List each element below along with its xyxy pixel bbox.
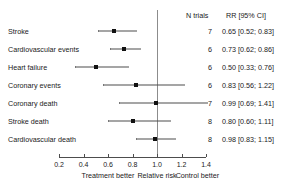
confidence-interval-cap xyxy=(175,139,176,140)
confidence-interval-cap xyxy=(170,121,171,122)
column-header-effect: RR [95% CI] xyxy=(226,11,266,20)
x-axis-tick xyxy=(206,154,207,157)
confidence-interval-cap xyxy=(119,103,120,104)
point-estimate-marker xyxy=(122,47,126,51)
confidence-interval-cap xyxy=(110,49,111,50)
x-axis-tick-label: 1.0 xyxy=(152,161,162,168)
row-outcome-label: Cardiovascular death xyxy=(8,135,76,144)
x-axis-tick-label: 1.2 xyxy=(177,161,187,168)
forest-row: Stroke death80.80 [0.60; 1.11] xyxy=(0,112,289,130)
confidence-interval-line xyxy=(98,31,136,32)
point-estimate-marker xyxy=(131,119,135,123)
row-effect-estimate: 0.98 [0.83; 1.15] xyxy=(222,135,274,144)
confidence-interval-cap xyxy=(136,139,137,140)
point-estimate-marker xyxy=(154,101,158,105)
row-effect-estimate: 0.99 [0.69; 1.41] xyxy=(222,99,274,108)
forest-row: Cardiovascular death80.98 [0.83; 1.15] xyxy=(0,130,289,148)
confidence-interval-cap xyxy=(128,67,129,68)
confidence-interval-cap xyxy=(103,85,104,86)
x-axis-line xyxy=(59,157,206,158)
x-axis-tick xyxy=(84,154,85,157)
row-n-trials: 6 xyxy=(186,63,212,72)
row-effect-estimate: 0.65 [0.52; 0.83] xyxy=(222,27,274,36)
row-n-trials: 8 xyxy=(186,135,212,144)
x-axis-tick-label: 1.4 xyxy=(201,161,211,168)
confidence-interval-line xyxy=(108,121,170,122)
row-effect-estimate: 0.73 [0.62; 0.86] xyxy=(222,45,274,54)
x-axis-tick xyxy=(133,154,134,157)
x-axis-tick xyxy=(157,154,158,157)
confidence-interval-cap xyxy=(75,67,76,68)
x-axis-tick-label: 0.6 xyxy=(103,161,113,168)
confidence-interval-cap xyxy=(98,31,99,32)
row-effect-estimate: 0.83 [0.56; 1.22] xyxy=(222,81,274,90)
x-axis-tick-label: 0.8 xyxy=(128,161,138,168)
row-outcome-label: Stroke death xyxy=(8,117,49,126)
row-outcome-label: Heart failure xyxy=(8,63,47,72)
confidence-interval-cap xyxy=(184,85,185,86)
x-axis-tick-label: 0.4 xyxy=(79,161,89,168)
row-outcome-label: Coronary events xyxy=(8,81,61,90)
column-header-n-trials: N trials xyxy=(186,11,208,20)
x-axis-tick-label: 0.2 xyxy=(54,161,64,168)
confidence-interval-line xyxy=(75,67,128,68)
forest-row: Heart failure60.50 [0.33; 0.76] xyxy=(0,58,289,76)
forest-row: Stroke70.65 [0.52; 0.83] xyxy=(0,22,289,40)
confidence-interval-line xyxy=(103,85,184,86)
point-estimate-marker xyxy=(94,65,98,69)
row-n-trials: 8 xyxy=(186,117,212,126)
row-n-trials: 6 xyxy=(186,81,212,90)
x-axis-tick xyxy=(182,154,183,157)
row-n-trials: 7 xyxy=(186,99,212,108)
confidence-interval-cap xyxy=(140,49,141,50)
forest-row: Coronary events60.83 [0.56; 1.22] xyxy=(0,76,289,94)
point-estimate-marker xyxy=(153,137,157,141)
x-axis-tick xyxy=(59,154,60,157)
row-effect-estimate: 0.80 [0.60; 1.11] xyxy=(222,117,273,126)
row-outcome-label: Stroke xyxy=(8,27,29,36)
row-effect-estimate: 0.50 [0.33; 0.76] xyxy=(222,63,274,72)
point-estimate-marker xyxy=(112,29,116,33)
forest-row: Cardiovascular events60.73 [0.62; 0.86] xyxy=(0,40,289,58)
confidence-interval-cap xyxy=(136,31,137,32)
caption-control-better: Control better xyxy=(176,171,220,180)
forest-plot: N trials RR [95% CI] Stroke70.65 [0.52; … xyxy=(0,0,289,195)
row-n-trials: 7 xyxy=(186,27,212,36)
row-outcome-label: Coronary death xyxy=(8,99,58,108)
row-n-trials: 6 xyxy=(186,45,212,54)
confidence-interval-cap xyxy=(108,121,109,122)
x-axis-tick xyxy=(108,154,109,157)
row-outcome-label: Cardiovascular events xyxy=(8,45,79,54)
point-estimate-marker xyxy=(134,83,138,87)
caption-treatment-better: Treatment better xyxy=(82,171,135,180)
caption-relative-risk: Relative risk xyxy=(137,171,176,180)
forest-row: Coronary death70.99 [0.69; 1.41] xyxy=(0,94,289,112)
